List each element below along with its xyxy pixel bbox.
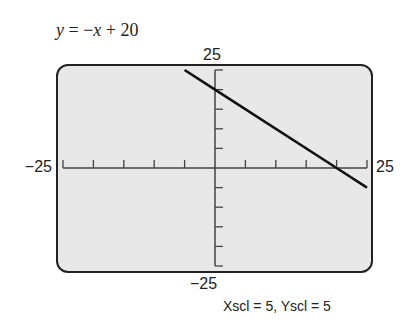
- scale-caption: Xscl = 5, Yscl = 5: [223, 298, 331, 314]
- x-max-label: 25: [376, 159, 394, 175]
- y-min-label: −25: [190, 276, 217, 292]
- x-min-label: −25: [25, 159, 52, 175]
- y-max-label: 25: [203, 47, 221, 63]
